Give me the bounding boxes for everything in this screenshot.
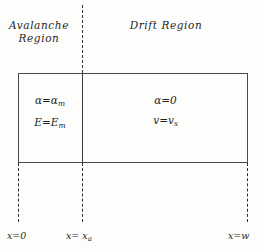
equation-v-s: v=vs <box>83 110 248 132</box>
axis-label-xa: x= xa <box>66 230 92 241</box>
avalanche-region-label: Avalanche Region <box>0 19 78 44</box>
axis-label-w: x=w <box>228 230 249 241</box>
axis-label-xa-text: x= x <box>66 230 88 241</box>
avalanche-region-equations: α=αm E=Em <box>18 90 82 134</box>
guide-line-w-bottom <box>247 163 248 222</box>
equation-v-s-text: v=v <box>153 114 174 126</box>
equation-alpha-m-subscript: m <box>58 99 65 108</box>
region-diagram: Avalanche Region Drift Region α=αm E=Em … <box>0 0 257 249</box>
guide-line-xa-top <box>82 5 83 73</box>
axis-label-xa-subscript: a <box>88 235 92 243</box>
axis-label-x0: x=0 <box>7 230 26 241</box>
equation-v-s-subscript: s <box>174 119 178 128</box>
equation-E-m: E=Em <box>18 112 82 134</box>
equation-E-m-text: E=E <box>34 116 58 128</box>
axis-label-w-text: x=w <box>228 230 249 241</box>
drift-region-equations: α=0 v=vs <box>83 90 248 132</box>
equation-alpha-zero: α=0 <box>83 90 248 110</box>
equation-E-m-subscript: m <box>59 121 66 130</box>
guide-line-x0-bottom <box>18 163 19 222</box>
equation-alpha-m-text: α=α <box>35 94 58 106</box>
drift-region-label: Drift Region <box>84 19 248 32</box>
guide-line-xa-bottom <box>82 163 83 222</box>
equation-alpha-m: α=αm <box>18 90 82 112</box>
equation-alpha-zero-text: α=0 <box>154 94 177 106</box>
axis-label-x0-text: x=0 <box>7 230 26 241</box>
